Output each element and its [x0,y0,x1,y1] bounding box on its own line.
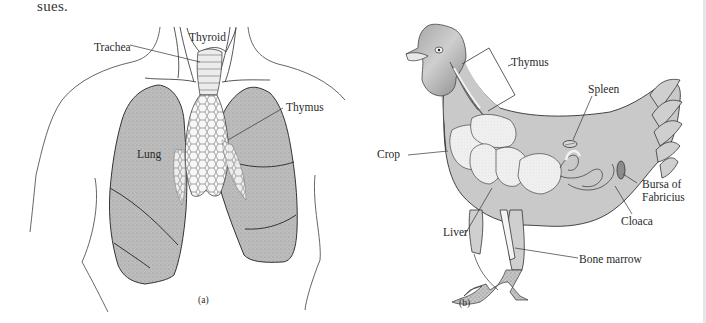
caption-b: (b) [459,298,470,309]
label-thyroid: Thyroid [189,31,226,44]
label-lung: Lung [137,148,162,161]
figure-a-human-lymphoid-organs: Thyroid Trachea Thymus Lung (a) [0,0,360,323]
label-trachea: Trachea [94,41,131,53]
bursa-organ [617,161,625,179]
label-cloaca: Cloaca [621,215,653,227]
thymus-organ [185,95,228,196]
label-bursa-line1: Bursa of [642,178,681,190]
label-bone-marrow: Bone marrow [579,253,643,265]
label-thymus: Thymus [511,56,549,69]
trachea [197,49,222,95]
label-bursa-line2: Fabricius [642,191,685,203]
caption-a: (a) [198,295,209,306]
figure-b-chicken-lymphoid-organs: Thymus Spleen Crop Bursa of Fabricius Cl… [370,0,706,323]
label-thymus: Thymus [286,101,324,114]
lung-right [216,87,297,262]
label-crop: Crop [377,148,400,161]
label-liver: Liver [443,226,468,238]
label-spleen: Spleen [588,83,620,96]
